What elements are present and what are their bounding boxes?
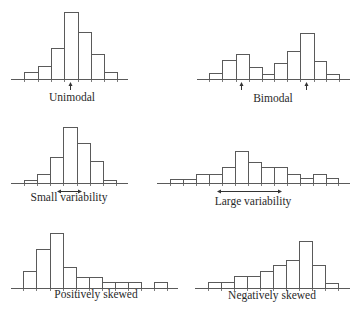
histogram-bar <box>300 242 313 289</box>
histogram-bar <box>287 261 300 289</box>
histogram-bar <box>301 179 314 184</box>
histogram-bar <box>24 272 37 289</box>
histogram-bar <box>288 175 301 184</box>
histogram-bar <box>261 272 274 289</box>
histogram-bar <box>25 73 39 80</box>
histogram-positively-skewed: Positively skewed <box>11 234 178 302</box>
histogram-small-variability: Small variability <box>11 128 128 205</box>
histogram-bar <box>275 168 288 184</box>
histogram-bar <box>301 34 315 80</box>
histogram-bar <box>209 283 222 289</box>
histogram-bar <box>171 180 184 184</box>
histogram-bar <box>236 152 249 184</box>
histogram-bar <box>263 75 275 80</box>
histogram-bar <box>64 128 78 184</box>
histogram-bar <box>52 49 65 80</box>
histogram-bar <box>92 55 105 80</box>
histogram-bar <box>274 266 287 289</box>
histogram-bar <box>51 158 64 184</box>
histogram-bar <box>248 277 261 289</box>
histogram-bar <box>235 277 248 289</box>
histogram-bar <box>262 168 275 184</box>
histogram-bar <box>155 283 168 289</box>
histogram-bar <box>315 62 327 80</box>
histogram-bar <box>275 64 288 80</box>
histogram-bar <box>184 180 197 184</box>
caption-large-variability: Large variability <box>215 195 292 208</box>
histogram-bar <box>64 268 77 289</box>
histogram-bar <box>37 250 51 289</box>
caption-negatively-skewed: Negatively skewed <box>228 289 316 302</box>
histogram-bar <box>210 74 223 80</box>
histogram-bar <box>314 175 327 184</box>
histogram-bimodal: Bimodal <box>197 34 350 105</box>
histogram-bar <box>77 278 90 289</box>
histogram-negatively-skewed: Negatively skewed <box>195 242 350 303</box>
histogram-bar <box>327 179 339 184</box>
histogram-unimodal: Unimodal <box>11 13 128 104</box>
histogram-bar <box>237 55 250 80</box>
caption-bimodal: Bimodal <box>253 92 293 104</box>
histogram-bar <box>65 13 79 80</box>
histogram-bar <box>288 52 301 80</box>
histogram-bar <box>105 73 118 80</box>
spread-double-arrow-icon <box>217 190 282 194</box>
histogram-bar <box>38 175 51 184</box>
histogram-bar <box>91 162 104 184</box>
histogram-bar <box>197 175 210 184</box>
histogram-large-variability: Large variability <box>157 152 350 209</box>
histogram-bar <box>210 175 223 184</box>
histogram-bar <box>326 284 339 289</box>
caption-unimodal: Unimodal <box>49 91 95 103</box>
histogram-shapes-figure: UnimodalBimodalSmall variabilityLarge va… <box>0 0 355 309</box>
histogram-bar <box>223 168 236 184</box>
histogram-bar <box>250 68 263 80</box>
mode-up-arrow-icon <box>240 82 244 90</box>
caption-small-variability: Small variability <box>31 191 108 204</box>
histogram-bar <box>249 163 262 184</box>
mode-up-arrow-icon <box>305 82 309 90</box>
histogram-bar <box>79 33 92 80</box>
caption-positively-skewed: Positively skewed <box>54 288 138 301</box>
histogram-bar <box>51 234 64 289</box>
histogram-bar <box>78 144 91 184</box>
histogram-bar <box>313 266 326 289</box>
histogram-bar <box>222 283 235 289</box>
histogram-bar <box>39 67 52 80</box>
histogram-bar <box>223 61 237 80</box>
histogram-bar <box>90 278 103 289</box>
mode-up-arrow-icon <box>69 82 73 90</box>
histogram-bar <box>327 75 340 80</box>
